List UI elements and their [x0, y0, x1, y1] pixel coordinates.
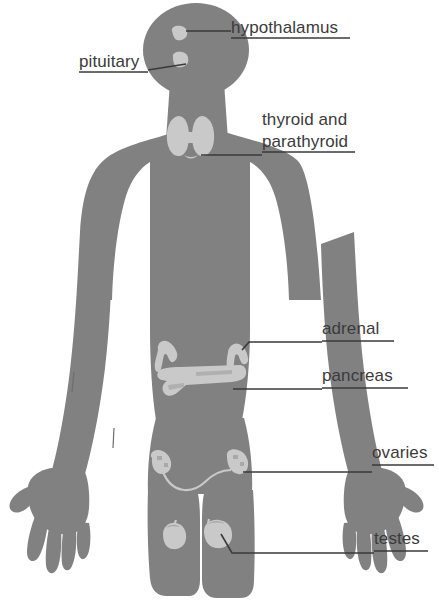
label-thyroid-line2: parathyroid: [262, 132, 348, 151]
label-testes: testes: [374, 529, 420, 548]
label-ovaries: ovaries: [372, 443, 428, 462]
label-pituitary: pituitary: [79, 52, 140, 71]
left-arm-shape: [52, 232, 112, 478]
body-silhouette: [10, 3, 424, 598]
testis-left: [163, 523, 186, 549]
label-hypothalamus: hypothalamus: [231, 18, 338, 37]
label-thyroid-line1: thyroid and: [262, 110, 347, 129]
label-pancreas: pancreas: [322, 366, 393, 385]
right-arm-shape: [321, 232, 382, 478]
label-adrenal: adrenal: [322, 319, 379, 338]
leader-adrenal: [242, 342, 322, 350]
torso-crease: [113, 428, 114, 448]
endocrine-diagram: hypothalamus pituitary thyroid and parat…: [0, 0, 439, 613]
